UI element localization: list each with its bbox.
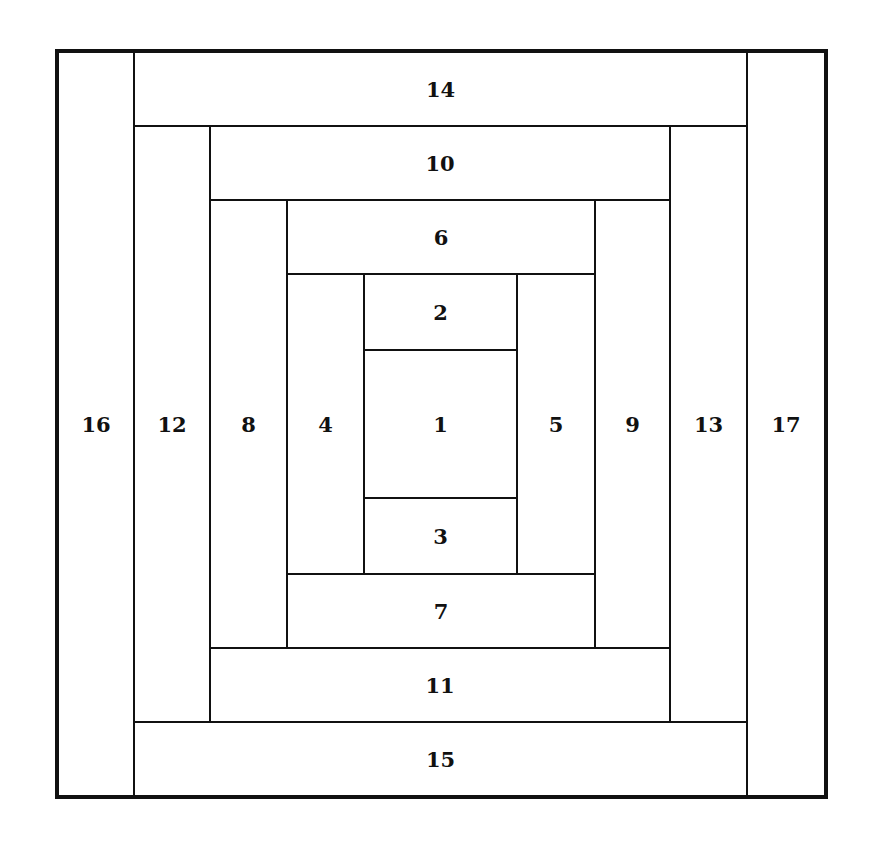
piece-label: 17 (771, 412, 800, 437)
piece-label: 16 (81, 412, 110, 437)
piece-6: 6 (286, 199, 596, 275)
piece-9: 9 (594, 199, 671, 649)
piece-8: 8 (209, 199, 288, 649)
piece-14: 14 (133, 51, 748, 127)
piece-1: 1 (363, 349, 518, 499)
piece-label: 5 (549, 412, 564, 437)
piece-label: 2 (433, 300, 448, 325)
piece-10: 10 (209, 125, 671, 201)
piece-17: 17 (746, 51, 826, 797)
piece-4: 4 (286, 273, 365, 575)
piece-label: 15 (426, 747, 455, 772)
piece-label: 4 (318, 412, 333, 437)
piece-12: 12 (133, 125, 211, 723)
piece-13: 13 (669, 125, 748, 723)
piece-15: 15 (133, 721, 748, 797)
piece-label: 6 (434, 225, 449, 250)
piece-5: 5 (516, 273, 596, 575)
piece-label: 10 (425, 151, 454, 176)
piece-11: 11 (209, 647, 671, 723)
log-cabin-diagram: 1 2 3 4 5 6 7 8 9 10 11 12 13 14 15 16 1… (0, 0, 869, 844)
piece-label: 9 (625, 412, 640, 437)
piece-label: 3 (433, 524, 448, 549)
piece-7: 7 (286, 573, 596, 649)
piece-2: 2 (363, 273, 518, 351)
piece-label: 13 (694, 412, 723, 437)
piece-3: 3 (363, 497, 518, 575)
piece-label: 7 (434, 599, 449, 624)
piece-label: 12 (157, 412, 186, 437)
piece-label: 14 (426, 77, 455, 102)
piece-label: 8 (241, 412, 256, 437)
piece-16: 16 (57, 51, 135, 797)
piece-label: 11 (425, 673, 454, 698)
piece-label: 1 (433, 412, 448, 437)
